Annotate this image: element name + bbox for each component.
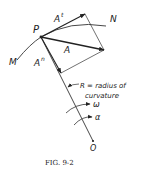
label-at: A (53, 14, 60, 24)
label-a: A (63, 45, 70, 55)
path-curve (17, 24, 106, 60)
label-m: M (9, 57, 17, 67)
label-p: P (33, 24, 40, 35)
label-at-sup: t (61, 11, 64, 18)
label-radius-line2: curvature (85, 92, 119, 100)
total-acceleration-vector (41, 37, 104, 50)
label-omega: ω (93, 100, 100, 109)
construction-line-top (85, 14, 104, 50)
label-an-sup: n (41, 55, 45, 62)
figure-caption: FIG. 9-2 (45, 159, 74, 167)
label-alpha: α (95, 113, 101, 122)
label-radius-line1: R = radius of (80, 82, 127, 90)
label-o: O (90, 144, 96, 153)
label-n: N (110, 14, 117, 24)
label-an: A (33, 58, 40, 68)
point-p-dot (40, 36, 43, 39)
radius-pointer-arrow (68, 84, 79, 87)
point-o-dot (92, 140, 94, 142)
acceleration-diagram: P M N A t A A n R = radius of curvature … (0, 0, 141, 177)
